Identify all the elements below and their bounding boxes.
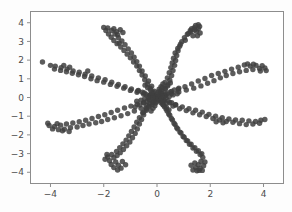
data-point xyxy=(169,60,174,65)
data-point xyxy=(101,79,106,84)
y-tick-label: −1 xyxy=(11,111,24,121)
data-point xyxy=(125,111,130,116)
data-point xyxy=(172,50,177,55)
data-point xyxy=(183,38,188,43)
data-point xyxy=(244,68,249,73)
data-point xyxy=(64,121,69,126)
data-point xyxy=(112,115,117,120)
data-point xyxy=(139,68,144,73)
data-point xyxy=(66,129,71,134)
data-point xyxy=(70,71,75,76)
data-point xyxy=(189,81,194,86)
data-point xyxy=(60,128,65,133)
data-point xyxy=(109,152,114,157)
data-point xyxy=(168,80,173,85)
data-point xyxy=(128,88,133,93)
data-point xyxy=(74,124,79,129)
data-point xyxy=(165,75,170,80)
data-point xyxy=(197,112,202,117)
data-point xyxy=(122,105,127,110)
data-point xyxy=(131,124,136,129)
y-tick-label: 1 xyxy=(18,74,24,84)
data-point xyxy=(64,69,69,74)
data-point xyxy=(192,160,197,165)
data-point xyxy=(120,30,125,35)
data-point xyxy=(146,78,151,83)
data-point xyxy=(171,56,176,61)
data-point xyxy=(99,119,104,124)
data-point xyxy=(173,102,178,107)
data-point xyxy=(245,61,250,66)
data-point xyxy=(220,120,225,125)
data-point xyxy=(85,68,90,73)
data-point xyxy=(175,91,180,96)
data-point xyxy=(40,59,45,64)
data-point xyxy=(45,121,50,126)
data-point xyxy=(250,121,255,126)
data-point xyxy=(190,110,195,115)
data-point xyxy=(200,168,205,173)
data-point xyxy=(196,78,201,83)
x-tick-label: 4 xyxy=(261,189,267,199)
data-point xyxy=(177,106,182,111)
data-point xyxy=(116,40,121,45)
data-point xyxy=(50,126,55,131)
data-point xyxy=(251,62,256,67)
data-point xyxy=(176,85,181,90)
data-point xyxy=(48,63,53,68)
data-point xyxy=(94,78,99,83)
data-point xyxy=(229,66,234,71)
data-point xyxy=(143,73,148,78)
data-point xyxy=(169,116,174,121)
data-point xyxy=(204,114,209,119)
data-point xyxy=(175,46,180,51)
data-point xyxy=(111,26,116,31)
data-point xyxy=(137,63,142,68)
data-point xyxy=(186,31,191,36)
scatter-plot-figure: −4−202443210−1−2−3−4 xyxy=(0,0,292,212)
data-point xyxy=(134,59,139,64)
data-point xyxy=(121,85,126,90)
data-point xyxy=(180,134,185,139)
y-tick-label: 0 xyxy=(18,93,24,103)
data-point xyxy=(236,65,241,70)
data-point xyxy=(141,109,146,114)
data-point xyxy=(134,119,139,124)
data-point xyxy=(114,84,119,89)
data-point xyxy=(132,104,137,109)
data-point xyxy=(202,76,207,81)
data-point xyxy=(202,159,207,164)
data-point xyxy=(216,71,221,76)
y-tick-label: 4 xyxy=(18,18,24,28)
data-point xyxy=(123,162,128,167)
data-point xyxy=(58,68,63,73)
data-point xyxy=(104,152,109,157)
data-point xyxy=(211,78,216,83)
data-point xyxy=(76,72,81,77)
data-point xyxy=(209,73,214,78)
data-point xyxy=(142,82,147,87)
data-point xyxy=(244,122,249,127)
data-point xyxy=(258,68,263,73)
data-point xyxy=(148,108,153,113)
data-point xyxy=(96,114,101,119)
data-point xyxy=(93,120,98,125)
data-point xyxy=(196,22,201,27)
data-point xyxy=(171,121,176,126)
data-point xyxy=(167,70,172,75)
data-point xyxy=(257,121,262,126)
data-point xyxy=(88,76,93,81)
x-tick-label: 2 xyxy=(207,189,213,199)
y-tick-label: −2 xyxy=(11,130,24,140)
plot-canvas: −4−202443210−1−2−3−4 xyxy=(0,0,292,212)
data-point xyxy=(129,129,134,134)
data-point xyxy=(134,99,139,104)
data-point xyxy=(230,119,235,124)
data-point xyxy=(102,157,107,162)
data-point xyxy=(115,32,120,37)
data-point xyxy=(259,63,264,68)
y-tick-label: −3 xyxy=(11,149,24,159)
data-point xyxy=(52,66,57,71)
y-tick-label: 3 xyxy=(18,37,24,47)
data-point xyxy=(222,69,227,74)
